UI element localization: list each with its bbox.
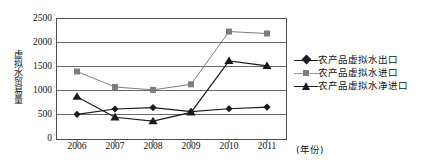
- triangle-marker-icon: [294, 80, 318, 92]
- square-marker-icon: [294, 67, 318, 79]
- legend-label-net-import: 农产品虚拟水净进口: [318, 80, 408, 92]
- legend-item-export[interactable]: 农产品虚拟水出口: [294, 54, 430, 66]
- chart-legend: 农产品虚拟水出口 农产品虚拟水进口 农产品虚拟水净进口: [294, 54, 430, 93]
- chart-figure: 虚拟水贸易量 2500 2000 1500 1000 500 0 2006 20…: [0, 0, 431, 166]
- plot-frame: [57, 19, 287, 140]
- x-axis-ticks: [77, 140, 267, 144]
- legend-item-net-import[interactable]: 农产品虚拟水净进口: [294, 80, 430, 92]
- data-point: [188, 81, 194, 87]
- data-point: [150, 87, 156, 93]
- legend-label-import: 农产品虚拟水进口: [318, 67, 398, 79]
- data-point: [264, 31, 270, 37]
- legend-label-export: 农产品虚拟水出口: [318, 54, 398, 66]
- data-point: [112, 84, 118, 90]
- diamond-marker-icon: [294, 54, 318, 66]
- data-point: [74, 69, 80, 75]
- legend-item-import[interactable]: 农产品虚拟水进口: [294, 67, 430, 79]
- data-point: [226, 29, 232, 35]
